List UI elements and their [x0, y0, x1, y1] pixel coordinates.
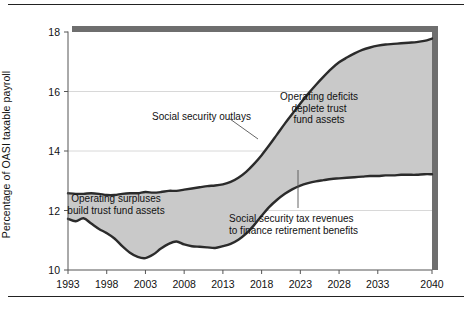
top-rule [8, 4, 464, 5]
annotation-line: Operating surpluses [67, 193, 164, 205]
y-axis-tick-label: 18 [26, 27, 60, 37]
y-axis-tick-label: 12 [26, 206, 60, 216]
y-axis-tick-label: 10 [26, 265, 60, 275]
annotation-line: deplete trust [280, 103, 358, 115]
figure-container: Percentage of OASI taxable payroll 10121… [0, 0, 472, 309]
x-axis-tick-label: 2040 [402, 279, 462, 290]
annotation-deficits: Operating deficitsdeplete trustfund asse… [280, 91, 358, 126]
annotation-line: Social security outlays [152, 111, 251, 123]
x-axis-tick-label: 2033 [348, 279, 408, 290]
annotation-outlays: Social security outlays [152, 111, 251, 123]
annotation-surpluses: Operating surplusesbuild trust fund asse… [67, 193, 164, 216]
annotation-line: to finance retirement benefits [229, 225, 358, 237]
x-axis-tick-marks [68, 270, 432, 274]
annotation-line: Social security tax revenues [229, 213, 358, 225]
y-axis-tick-label: 14 [26, 146, 60, 156]
annotation-line: Operating deficits [280, 91, 358, 103]
annotation-line: build trust fund assets [67, 205, 164, 217]
y-axis-tick-marks [64, 32, 68, 270]
y-axis-tick-label: 16 [26, 87, 60, 97]
y-axis-label: Percentage of OASI taxable payroll [0, 0, 14, 309]
annotation-line: fund assets [280, 114, 358, 126]
bottom-rule [8, 296, 464, 297]
annotation-tax-revenues: Social security tax revenuesto finance r… [229, 213, 358, 236]
